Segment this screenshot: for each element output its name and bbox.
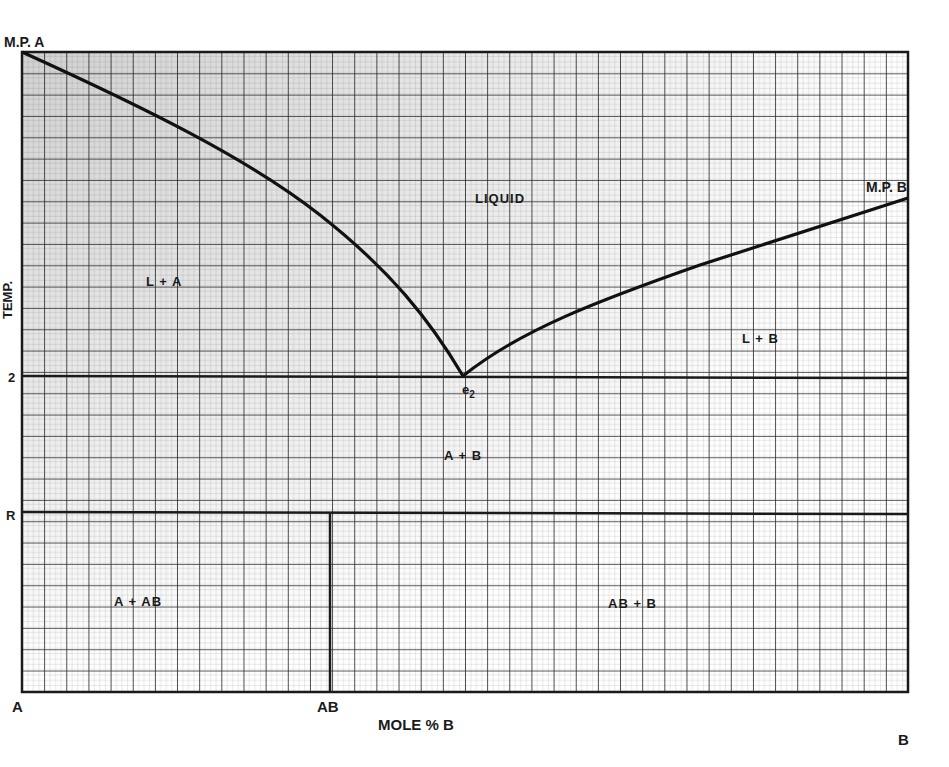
x-axis-label: MOLE % B: [378, 716, 454, 733]
x-tick-a: A: [12, 698, 23, 715]
y-tick-e2: 2: [8, 370, 15, 385]
mp-b-label: M.P. B: [866, 179, 907, 195]
region-ab-plus-b: AB + B: [608, 596, 657, 611]
y-tick-r: R: [6, 508, 16, 523]
region-l-plus-a: L + A: [146, 274, 182, 289]
x-tick-ab: AB: [317, 698, 339, 715]
region-l-plus-b: L + B: [742, 331, 779, 346]
region-a-plus-b: A + B: [444, 448, 482, 463]
x-tick-b: B: [898, 731, 909, 748]
phase-diagram-chart: M.P. A M.P. B TEMP. 2 R e2 LIQUID L + A …: [0, 0, 949, 767]
region-a-plus-ab: A + AB: [114, 594, 162, 609]
region-liquid: LIQUID: [475, 191, 525, 206]
mp-a-label: M.P. A: [4, 34, 44, 50]
y-axis-label: TEMP.: [0, 281, 15, 319]
